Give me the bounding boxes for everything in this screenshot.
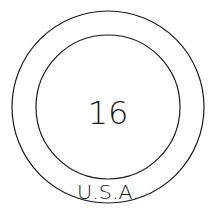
- country-label: U.S.A.: [77, 181, 139, 203]
- center-number: 16: [88, 94, 129, 132]
- stamp-emblem: 16 U.S.A.: [0, 0, 213, 213]
